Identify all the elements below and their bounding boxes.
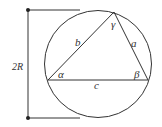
angle-beta-label: β [133, 68, 140, 80]
diameter-label: 2R [12, 61, 23, 72]
circumcircle-diagram: 2R b a c α β γ [0, 0, 162, 127]
angle-alpha-label: α [58, 68, 64, 80]
diameter-top-dot [26, 8, 30, 12]
circumcircle [45, 11, 152, 118]
side-a-label: a [131, 37, 137, 49]
side-b-label: b [75, 36, 81, 48]
side-c-label: c [94, 79, 99, 91]
diameter-bottom-dot [26, 116, 30, 120]
angle-gamma-label: γ [111, 18, 116, 30]
